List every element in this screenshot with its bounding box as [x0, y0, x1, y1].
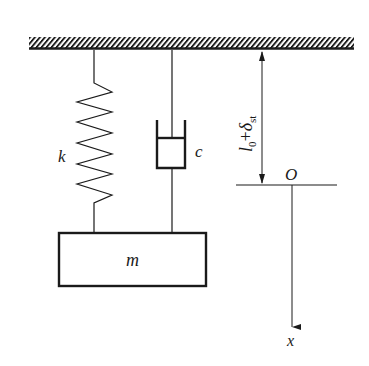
dimension-label-delta-sub: st — [246, 116, 258, 123]
ceiling-support — [29, 37, 354, 49]
mass-label: m — [126, 250, 139, 270]
static-length-dimension — [259, 51, 265, 184]
dimension-label: l0+δst — [236, 116, 258, 152]
diagram-canvas: k c m l0+δst O x — [0, 0, 369, 366]
spring — [77, 50, 112, 233]
damper-label: c — [195, 142, 203, 161]
spring-label: k — [58, 147, 66, 166]
spring-coil — [77, 50, 112, 233]
dimension-arrow-down-icon — [259, 174, 265, 184]
svg-text:l0+δst: l0+δst — [236, 116, 258, 152]
damper-cylinder — [157, 120, 185, 168]
ceiling-hatch — [29, 37, 354, 48]
damper — [157, 50, 185, 233]
x-axis-label: x — [286, 332, 294, 349]
dimension-arrow-up-icon — [259, 51, 265, 61]
origin-label: O — [285, 165, 297, 184]
dimension-label-plus: + — [236, 131, 256, 141]
